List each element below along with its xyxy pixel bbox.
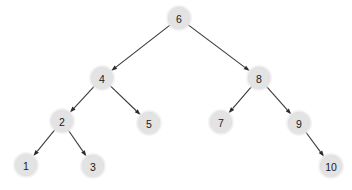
edge-layer [33,25,324,157]
node-label: 6 [176,13,182,25]
tree-node[interactable]: 3 [80,153,106,179]
tree-edge [306,132,324,157]
tree-edge [70,86,94,112]
node-label: 2 [59,116,65,128]
node-label: 4 [99,73,105,85]
tree-node[interactable]: 10 [318,153,344,179]
node-label: 7 [218,117,224,129]
node-label: 1 [23,160,29,172]
binary-tree-diagram: 64825791310 [0,0,352,190]
tree-edge [69,130,87,156]
node-label: 9 [296,118,302,130]
node-layer: 64825791310 [13,5,344,179]
tree-edge [111,25,170,71]
node-label: 10 [325,161,337,173]
tree-node[interactable]: 4 [89,65,115,91]
tree-node[interactable]: 5 [136,110,162,136]
tree-edge [188,25,250,71]
tree-edge [110,86,140,115]
tree-edge [267,87,292,115]
tree-node[interactable]: 2 [49,108,75,134]
tree-node[interactable]: 1 [13,152,39,178]
tree-edge [229,87,252,114]
tree-node[interactable]: 6 [166,5,192,31]
tree-node[interactable]: 7 [208,109,234,135]
node-label: 8 [256,73,262,85]
tree-edge [33,130,54,156]
node-label: 5 [146,118,152,130]
tree-canvas: 64825791310 [0,0,352,190]
node-label: 3 [90,161,96,173]
tree-node[interactable]: 8 [246,65,272,91]
tree-node[interactable]: 9 [286,110,312,136]
